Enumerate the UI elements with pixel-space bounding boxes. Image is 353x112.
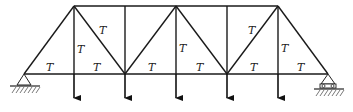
member-label: T bbox=[46, 61, 55, 74]
pin-support-icon bbox=[10, 74, 40, 93]
member-label: T bbox=[93, 61, 102, 74]
member-label: T bbox=[281, 42, 290, 55]
member-label: T bbox=[148, 61, 157, 74]
member-label: T bbox=[297, 61, 306, 74]
roller-support-icon bbox=[314, 74, 344, 96]
member-label: T bbox=[250, 61, 259, 74]
truss-diagram: T T T T T T T T T T T bbox=[0, 0, 353, 112]
member-label: T bbox=[77, 43, 86, 56]
member-label: T bbox=[196, 61, 205, 74]
member-label: T bbox=[99, 24, 108, 37]
member-label: T bbox=[179, 42, 188, 55]
